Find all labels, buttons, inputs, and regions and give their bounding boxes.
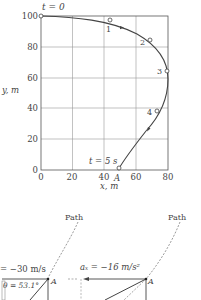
y-axis-label: y, m [1,85,19,95]
diagram-canvas: t = 0 1 2 3 4 t = 5 s 0 20 40 60 80 100 … [0,0,201,300]
path-label-right: Path [168,213,186,222]
svg-text:80: 80 [163,172,174,182]
x-axis-label: x, m [100,181,118,191]
point-A-right: A [147,277,154,286]
accel-arrowhead-icon [83,277,89,281]
path-label-left: Path [65,213,83,222]
end-time-label: t = 5 s [89,156,118,166]
svg-text:40: 40 [27,103,38,113]
svg-text:20: 20 [67,172,78,182]
point-label-3: 3 [157,67,162,76]
point-A-left: A [50,277,57,286]
point-label-1: 1 [106,25,111,34]
acceleration-label: aₓ = −16 m/s² [80,262,141,272]
velocity-diagram: Path = −30 m/s θ = 53.1° A [0,213,83,300]
acceleration-diagram: Path aₓ = −16 m/s² A [68,213,186,300]
angle-label: θ = 53.1° [3,281,39,290]
svg-text:20: 20 [27,134,38,144]
svg-text:80: 80 [27,42,38,52]
start-time-label: t = 0 [42,2,65,12]
direction-arrow-icon [147,127,151,132]
svg-text:0: 0 [33,165,38,175]
point-label-2: 2 [140,38,145,47]
y-tick-labels: 0 20 40 60 80 100 [22,11,38,175]
svg-text:60: 60 [131,172,142,182]
svg-text:60: 60 [27,73,38,83]
velocity-label: = −30 m/s [0,264,46,274]
svg-text:100: 100 [22,11,38,21]
point-label-4: 4 [147,108,152,117]
direction-arrow-icon [120,26,124,29]
svg-text:0: 0 [38,172,43,182]
